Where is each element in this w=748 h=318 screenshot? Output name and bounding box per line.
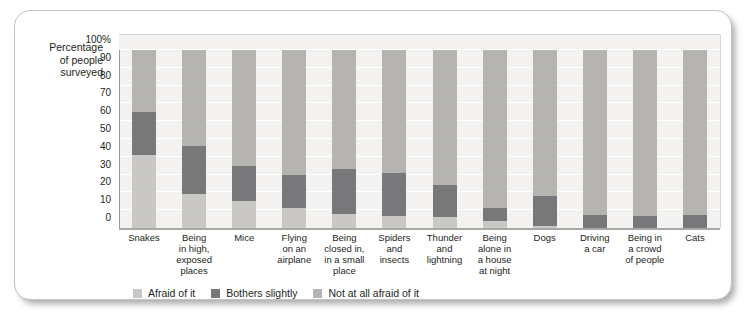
- x-tick-label-line: Snakes: [120, 232, 168, 243]
- x-axis-line: [119, 228, 720, 230]
- bar-segment: [533, 50, 557, 196]
- y-axis-tick-labels: 0102030405060708090100%: [71, 50, 115, 228]
- bar-segment: [433, 217, 457, 228]
- x-axis-tick-labels: SnakesBeingin high,exposedplacesMiceFlyi…: [119, 232, 720, 276]
- x-tick-label-line: place: [320, 265, 368, 276]
- x-tick-label-line: at night: [471, 265, 519, 276]
- x-tick-label-line: Being in: [621, 232, 669, 243]
- bar-segment: [382, 173, 406, 216]
- stacked-bar[interactable]: [633, 50, 657, 228]
- x-tick-label: Spidersandinsects: [369, 232, 419, 276]
- legend-item[interactable]: Not at all afraid of it: [313, 287, 418, 299]
- x-tick-label-line: of people: [621, 254, 669, 265]
- y-tick-label-20: 20: [100, 176, 111, 187]
- stacked-bar[interactable]: [332, 50, 356, 228]
- stacked-bar[interactable]: [382, 50, 406, 228]
- y-axis-line: [119, 50, 120, 228]
- bar-slot: [369, 50, 419, 228]
- y-tick-label-50: 50: [100, 123, 111, 134]
- y-tick-label-100: 100%: [85, 34, 111, 45]
- bar-segment: [433, 50, 457, 185]
- bar-slot: [470, 50, 520, 228]
- x-tick-label: Beingalone ina houseat night: [470, 232, 520, 276]
- bar-segment: [683, 50, 707, 215]
- bar-segment: [282, 50, 306, 175]
- bar-slot: [419, 50, 469, 228]
- bar-segment: [182, 146, 206, 194]
- bar-slot: [119, 50, 169, 228]
- y-tick-label-0: 0: [105, 212, 111, 223]
- bar-segment: [282, 208, 306, 228]
- x-tick-label-line: a crowd: [621, 243, 669, 254]
- bar-series-container: [119, 50, 720, 228]
- x-tick-label-line: Spiders: [370, 232, 418, 243]
- x-tick-label: Thunderandlightning: [419, 232, 469, 276]
- stacked-bar[interactable]: [182, 50, 206, 228]
- bar-slot: [319, 50, 369, 228]
- bar-segment: [533, 196, 557, 226]
- x-tick-label-line: and: [370, 243, 418, 254]
- x-tick-label-line: a car: [571, 243, 619, 254]
- x-tick-label: Being ina crowdof people: [620, 232, 670, 276]
- bar-segment: [633, 216, 657, 228]
- bar-segment: [132, 50, 156, 112]
- legend-item[interactable]: Afraid of it: [133, 287, 195, 299]
- bar-segment: [182, 194, 206, 228]
- x-tick-label: Mice: [219, 232, 269, 276]
- legend-swatch: [133, 289, 142, 298]
- x-tick-label-line: Being: [471, 232, 519, 243]
- y-tick-label-70: 70: [100, 87, 111, 98]
- bar-slot: [269, 50, 319, 228]
- y-tick-label-90: 90: [100, 51, 111, 62]
- x-tick-label: Beingin high,exposedplaces: [169, 232, 219, 276]
- bar-segment: [232, 201, 256, 228]
- x-tick-label-line: Cats: [671, 232, 719, 243]
- y-tick-label-40: 40: [100, 140, 111, 151]
- plot-area: [119, 50, 720, 228]
- bar-slot: [670, 50, 720, 228]
- chart-card: Percentage of people surveyed 0102030405…: [14, 10, 732, 300]
- x-tick-label-line: Thunder: [420, 232, 468, 243]
- bar-segment: [483, 221, 507, 228]
- x-tick-label: Cats: [670, 232, 720, 276]
- bar-segment: [182, 50, 206, 146]
- chart-legend: Afraid of itBothers slightlyNot at all a…: [119, 287, 720, 299]
- stacked-bar[interactable]: [132, 50, 156, 228]
- legend-swatch: [211, 289, 220, 298]
- x-tick-label-line: closed in,: [320, 243, 368, 254]
- bar-slot: [570, 50, 620, 228]
- x-tick-label-line: Dogs: [521, 232, 569, 243]
- bar-segment: [433, 185, 457, 217]
- stacked-bar[interactable]: [533, 50, 557, 228]
- x-tick-label: Beingclosed in,in a smallplace: [319, 232, 369, 276]
- stacked-bar[interactable]: [282, 50, 306, 228]
- stacked-bar[interactable]: [583, 50, 607, 228]
- bar-segment: [332, 50, 356, 169]
- stacked-bar[interactable]: [232, 50, 256, 228]
- x-tick-label-line: alone in: [471, 243, 519, 254]
- x-tick-label-line: Being: [170, 232, 218, 243]
- x-tick-label-line: Driving: [571, 232, 619, 243]
- x-tick-label-line: in a small: [320, 254, 368, 265]
- x-tick-label: Dogs: [520, 232, 570, 276]
- bar-segment: [683, 215, 707, 228]
- bar-segment: [132, 112, 156, 155]
- x-tick-label-line: Flying: [270, 232, 318, 243]
- x-tick-label-line: on an: [270, 243, 318, 254]
- bar-slot: [520, 50, 570, 228]
- bar-segment: [132, 155, 156, 228]
- y-tick-label-10: 10: [100, 194, 111, 205]
- bar-segment: [332, 214, 356, 228]
- y-tick-label-80: 80: [100, 69, 111, 80]
- stacked-bar[interactable]: [683, 50, 707, 228]
- x-tick-label-line: exposed: [170, 254, 218, 265]
- legend-item[interactable]: Bothers slightly: [211, 287, 297, 299]
- x-tick-label-line: Being: [320, 232, 368, 243]
- bar-segment: [382, 50, 406, 173]
- stacked-bar[interactable]: [483, 50, 507, 228]
- stacked-bar[interactable]: [433, 50, 457, 228]
- bar-segment: [583, 215, 607, 228]
- x-tick-label: Snakes: [119, 232, 169, 276]
- x-tick-label-line: airplane: [270, 254, 318, 265]
- x-tick-label-line: and: [420, 243, 468, 254]
